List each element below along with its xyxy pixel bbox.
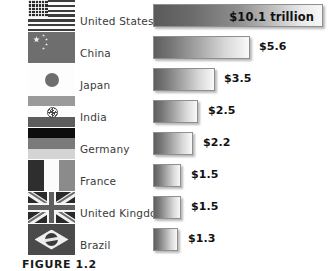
flag-united-states-icon: [28, 0, 75, 31]
table-row: India $2.5: [0, 96, 329, 128]
bar-value-label: $10.1 trillion: [229, 10, 314, 24]
bar-value-label: $1.3: [188, 232, 216, 245]
table-row: Brazil $1.3: [0, 224, 329, 256]
flag-france-icon: [28, 160, 75, 191]
bar-value-label: $1.5: [191, 168, 219, 181]
table-row: Germany $2.2: [0, 128, 329, 160]
bar-value-label: $1.5: [191, 200, 219, 213]
bar-value-label: $2.2: [203, 136, 231, 149]
flag-japan-icon: [28, 64, 75, 95]
bar-value-label: $3.5: [224, 72, 252, 85]
bar-france: $1.5: [153, 164, 181, 187]
flag-united-kingdom-icon: [28, 192, 75, 223]
country-label: Germany: [80, 143, 130, 155]
bar-japan: $3.5: [153, 68, 215, 91]
bar-germany: $2.2: [153, 132, 193, 155]
bar-united-states: $10.1 trillion: [153, 4, 323, 27]
flag-china-icon: [28, 32, 75, 63]
table-row: United States $10.1 trillion: [0, 0, 329, 32]
bar-china: $5.6: [153, 36, 250, 59]
country-label: India: [80, 111, 107, 123]
flag-brazil-icon: [28, 224, 75, 255]
country-label: United States: [80, 15, 154, 27]
figure-caption: FIGURE 1.2: [22, 258, 97, 271]
country-label: France: [80, 175, 116, 187]
flag-india-icon: [28, 96, 75, 127]
country-label: Brazil: [80, 239, 111, 251]
table-row: France $1.5: [0, 160, 329, 192]
bar-value-label: $5.6: [259, 40, 287, 53]
bar-value-label: $2.5: [208, 104, 236, 117]
table-row: China $5.6: [0, 32, 329, 64]
table-row: Japan $3.5: [0, 64, 329, 96]
flag-germany-icon: [28, 128, 75, 159]
bar-india: $2.5: [153, 100, 198, 123]
bar-brazil: $1.3: [153, 228, 178, 251]
table-row: United Kingdom $1.5: [0, 192, 329, 224]
country-label: Japan: [80, 79, 110, 91]
bar-united-kingdom: $1.5: [153, 196, 181, 219]
country-label: China: [80, 47, 111, 59]
